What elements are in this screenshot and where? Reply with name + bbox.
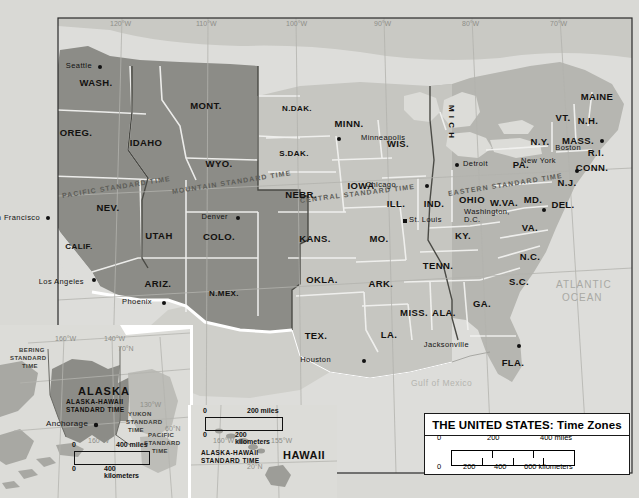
city-marker-boston: [600, 139, 604, 143]
hawaii-grid-160w: 160°W: [213, 437, 234, 444]
city-marker-washingtondc: [542, 208, 546, 212]
hawaii-scale-km-end: 200 kilometers: [235, 431, 283, 445]
scale-km-zero: 0: [437, 462, 441, 471]
map-title: THE UNITED STATES: Time Zones: [432, 419, 621, 431]
alaska-inset: ALASKA ALASKA-HAWAII STANDARD TIME Ancho…: [0, 325, 193, 498]
longitude-label-80W: 80°W: [462, 20, 479, 27]
alaska-grid-130w: 130°W: [140, 401, 161, 408]
city-marker-newyork: [575, 169, 579, 173]
alaska-scale-miles-zero: 0: [72, 441, 76, 448]
longitude-label-110W: 110°W: [196, 20, 217, 27]
city-marker-minneapolis: [337, 137, 341, 141]
city-marker-chicago: [425, 184, 429, 188]
alaska-scale-km-end: 400 kilometers: [104, 465, 150, 479]
alaska-grid-70n: 70°N: [118, 345, 134, 352]
map-scale-bar: 0 200 400 miles 0 200 400 600 kilometers: [425, 436, 629, 466]
alaska-grid-160w-b: 160°W: [88, 437, 109, 444]
hawaii-scale-bar: 0 200 miles 0 200 kilometers: [205, 417, 283, 431]
alaska-grid-160w: 160°W: [55, 335, 76, 342]
hawaii-scale-miles-end: 200 miles: [247, 407, 279, 414]
city-marker-phoenix: [162, 301, 166, 305]
city-marker-losangeles: [92, 278, 96, 282]
hawaii-inset: HAWAII ALASKA-HAWAII STANDARD TIME 160°W…: [188, 405, 337, 498]
city-marker-denver: [236, 216, 240, 220]
hawaii-scale-km-zero: 0: [203, 431, 207, 438]
hawaii-grid-20n: 20°N: [247, 463, 263, 470]
alaska-scale-bar: 0 400 miles 0 400 kilometers: [74, 451, 150, 465]
scale-km-end: 600 kilometers: [524, 462, 573, 471]
scale-miles-zero: 0: [437, 433, 441, 442]
map-title-box: THE UNITED STATES: Time Zones 0 200 400 …: [424, 413, 630, 475]
map-title-bar: THE UNITED STATES: Time Zones: [425, 414, 629, 436]
longitude-label-70W: 70°W: [550, 20, 567, 27]
alaska-grid-140w: 140°W: [104, 335, 125, 342]
scale-miles-mid: 200: [487, 433, 500, 442]
scale-miles-end: 400 miles: [540, 433, 572, 442]
alaska-scale-km-zero: 0: [72, 465, 76, 472]
longitude-label-100W: 100°W: [286, 20, 307, 27]
city-marker-houston: [362, 359, 366, 363]
alaska-grid-60n: 60°N: [165, 425, 181, 432]
scale-km-200: 200: [463, 462, 476, 471]
alaska-scale-miles-end: 400 miles: [116, 441, 148, 448]
city-marker-sanfrancisco: [46, 216, 50, 220]
city-marker-jacksonville: [517, 344, 521, 348]
city-marker-detroit: [455, 163, 459, 167]
city-marker-seattle: [98, 65, 102, 69]
time-zone-map: 120°W110°W100°W90°W80°W70°W40°N PACIFIC …: [0, 0, 639, 498]
scale-km-400: 400: [494, 462, 507, 471]
longitude-label-120W: 120°W: [110, 20, 131, 27]
hawaii-scale-miles-zero: 0: [203, 407, 207, 414]
city-marker-stlouis: [403, 219, 407, 223]
longitude-label-90W: 90°W: [374, 20, 391, 27]
